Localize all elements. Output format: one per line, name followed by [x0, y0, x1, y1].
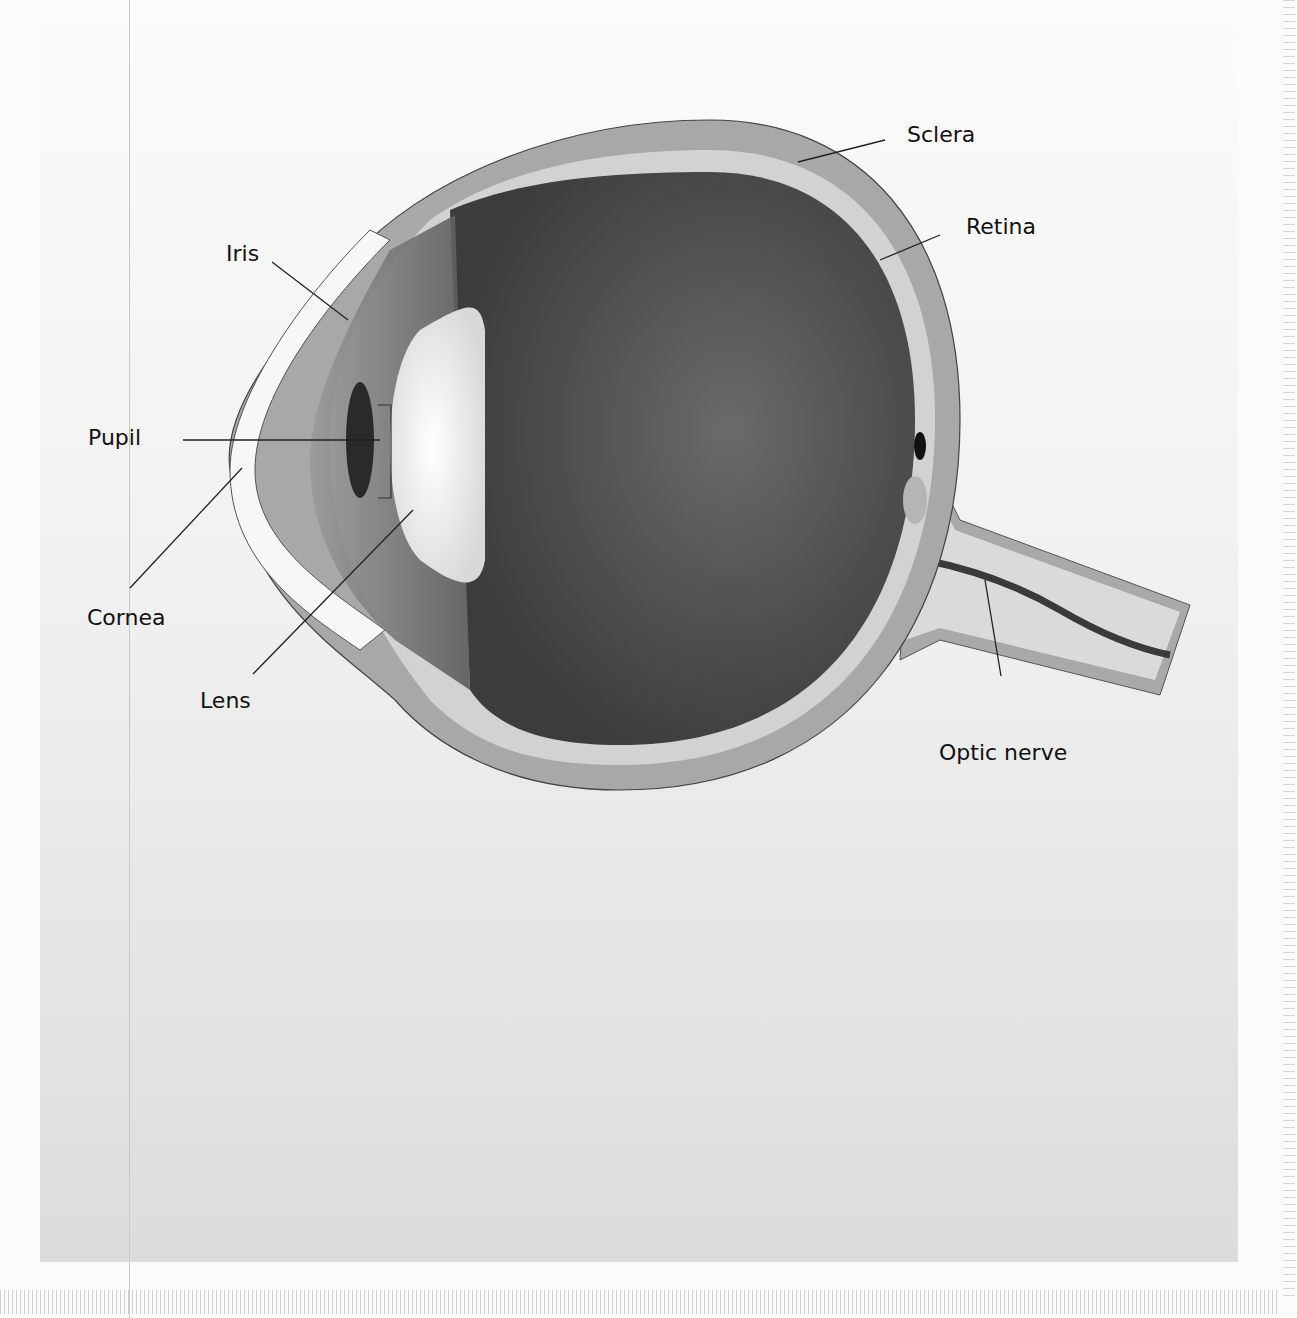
label-lens: Lens: [200, 688, 251, 713]
label-retina: Retina: [966, 214, 1036, 239]
label-sclera: Sclera: [907, 122, 975, 147]
cornea-leader: [130, 468, 242, 588]
label-cornea: Cornea: [87, 605, 165, 630]
label-iris: Iris: [226, 241, 259, 266]
eye-diagram: [0, 0, 1297, 1318]
label-pupil: Pupil: [88, 425, 141, 450]
label-optic-nerve: Optic nerve: [939, 740, 1067, 765]
